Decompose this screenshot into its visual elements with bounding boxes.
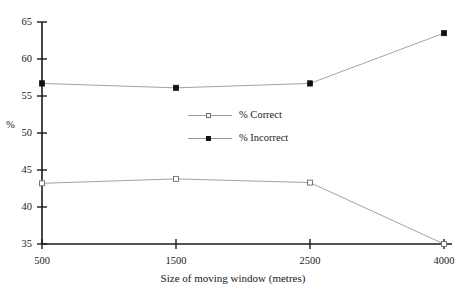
y-axis-tick-label: 60: [0, 54, 32, 65]
legend-marker-filled-square-icon: [188, 134, 232, 143]
x-axis-tick-label: 4000: [434, 256, 455, 267]
y-axis-tick-label: 40: [0, 202, 32, 213]
x-axis-tick-label: 500: [34, 256, 50, 267]
legend-item-incorrect: % Incorrect: [188, 133, 288, 144]
y-axis-tick-label: 55: [0, 91, 32, 102]
y-axis-title: %: [6, 120, 15, 131]
x-axis-title: Size of moving window (metres): [161, 273, 306, 284]
data-point-marker: [40, 181, 45, 186]
data-point-marker: [39, 81, 44, 86]
y-axis-tick-label: 45: [0, 165, 32, 176]
chart-plot-area: [0, 0, 467, 290]
y-axis-tick-label: 50: [0, 128, 32, 139]
legend-marker-open-square-icon: [188, 111, 232, 120]
data-point-marker: [442, 242, 447, 247]
data-point-marker: [308, 180, 313, 185]
series-line-correct: [42, 179, 444, 244]
data-point-marker: [307, 81, 312, 86]
data-point-marker: [441, 30, 446, 35]
data-point-marker: [173, 85, 178, 90]
series-line-incorrect: [42, 33, 444, 88]
x-axis-tick-label: 2500: [300, 256, 321, 267]
y-axis-tick-label: 65: [0, 17, 32, 28]
legend-label-incorrect: % Incorrect: [239, 133, 288, 144]
y-axis-tick-label: 35: [0, 239, 32, 250]
legend-item-correct: % Correct: [188, 110, 282, 121]
chart-container: 35404550556065 500150025004000 % Size of…: [0, 0, 467, 290]
data-point-marker: [174, 176, 179, 181]
x-axis-tick-label: 1500: [166, 256, 187, 267]
legend-label-correct: % Correct: [239, 110, 282, 121]
